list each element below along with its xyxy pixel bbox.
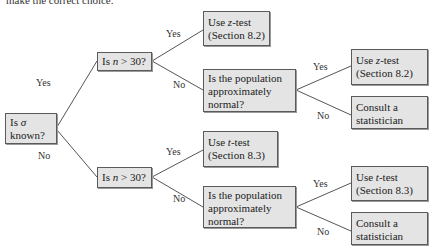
node-consult-statistician-2: Consult a statistician bbox=[351, 212, 428, 245]
edge-label-poptop-yes: Yes bbox=[313, 61, 328, 72]
node-use-z-test-2: Use z-test (Section 8.2) bbox=[351, 49, 428, 85]
edge-label-popbottom-yes: Yes bbox=[313, 178, 328, 189]
node-n-gt-30-bottom: Is n > 30? bbox=[97, 167, 152, 188]
edge-label-root-no: No bbox=[38, 150, 50, 161]
edge-label-ntop-yes: Yes bbox=[166, 28, 181, 39]
edge-label-popbottom-no: No bbox=[317, 226, 329, 237]
edge-label-poptop-no: No bbox=[317, 110, 329, 121]
node-use-t-test-2: Use t-test (Section 8.3) bbox=[351, 166, 428, 201]
edge-root-no bbox=[57, 130, 97, 177]
node-sigma-known: Is σ known? bbox=[5, 113, 57, 144]
edge-label-root-yes: Yes bbox=[36, 77, 51, 88]
edge-label-nbottom-no: No bbox=[173, 193, 185, 204]
sigma-symbol: σ bbox=[21, 116, 26, 128]
edge-label-nbottom-yes: Yes bbox=[166, 146, 181, 157]
edge-label-ntop-no: No bbox=[173, 79, 185, 90]
node-use-t-test-1: Use t-test (Section 8.3) bbox=[203, 131, 278, 167]
node-use-z-test-1: Use z-test (Section 8.2) bbox=[203, 11, 270, 46]
node-population-normal-bottom: Is the population approximately normal? bbox=[203, 186, 296, 228]
edge-root-yes bbox=[57, 61, 97, 127]
node-n-gt-30-top: Is n > 30? bbox=[97, 52, 152, 71]
node-consult-statistician-1: Consult a statistician bbox=[351, 96, 428, 129]
node-population-normal-top: Is the population approximately normal? bbox=[203, 69, 296, 112]
